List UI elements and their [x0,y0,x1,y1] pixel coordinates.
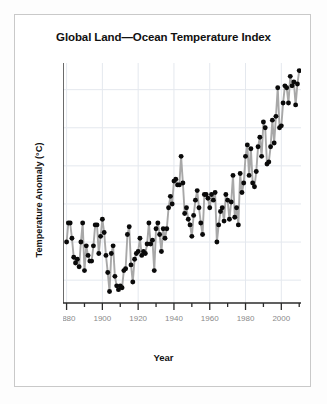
svg-text:1980: 1980 [237,314,255,323]
svg-text:1880: 1880 [63,314,76,323]
x-axis-ticks [67,303,300,310]
chart-page: Global Land—Ocean Temperature Index Temp… [0,0,327,404]
chart-frame: Global Land—Ocean Temperature Index Temp… [14,14,311,387]
x-tick-labels: 1880190019201940196019802000 [63,314,291,323]
x-axis-label: Year [15,352,312,363]
temperature-anomaly-plot: −0.4−0.20.00.20.40.6 1880190019201940196… [63,63,301,331]
plot-area: −0.4−0.20.00.20.40.6 1880190019201940196… [63,63,301,331]
y-axis-label: Temperature Anomaly (°C) [34,90,44,310]
svg-text:2000: 2000 [272,314,290,323]
data-markers [64,68,301,294]
svg-text:1960: 1960 [201,314,219,323]
svg-text:1920: 1920 [129,314,147,323]
chart-title: Global Land—Ocean Temperature Index [15,31,312,43]
svg-text:1940: 1940 [165,314,183,323]
svg-text:1900: 1900 [93,314,111,323]
